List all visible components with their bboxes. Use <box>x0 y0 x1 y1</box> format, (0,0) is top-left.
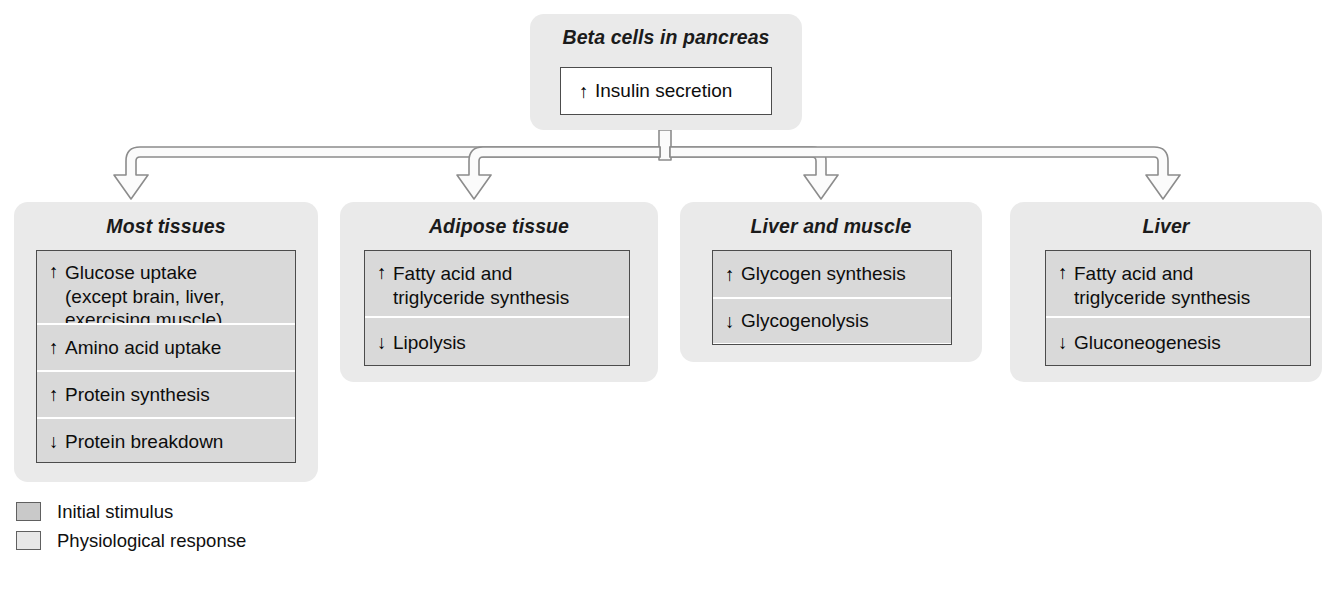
effect-label: Fatty acid and triglyceride synthesis <box>1074 262 1250 309</box>
effect-row: ↓ Lipolysis <box>365 316 629 366</box>
effect-row: ↑ Protein synthesis <box>37 370 295 417</box>
legend-swatch-icon <box>16 502 41 521</box>
up-arrow-icon: ↑ <box>49 338 65 357</box>
connector-stem <box>659 130 671 160</box>
effect-label: Gluconeogenesis <box>1074 331 1221 355</box>
effect-row: ↓ Gluconeogenesis <box>1046 316 1310 366</box>
legend: Initial stimulus Physiological response <box>16 497 246 555</box>
down-arrow-icon: ↓ <box>725 312 741 331</box>
effect-row: ↑ Amino acid uptake <box>37 323 295 370</box>
effect-row: ↑ Glycogen synthesis <box>713 251 951 297</box>
legend-label: Initial stimulus <box>57 501 173 523</box>
effect-box-insulin-secretion: ↑ Insulin secretion <box>560 67 772 115</box>
effect-label: Protein breakdown <box>65 430 223 454</box>
effect-label: Fatty acid and triglyceride synthesis <box>393 262 569 309</box>
up-arrow-icon: ↑ <box>725 265 741 284</box>
down-arrow-icon: ↓ <box>377 333 393 352</box>
effect-label: Lipolysis <box>393 331 466 355</box>
connector-to-liver-and-muscle <box>670 147 838 199</box>
connector-to-most-tissues <box>114 147 660 199</box>
diagram-canvas: Beta cells in pancreas ↑ Insulin secreti… <box>0 0 1331 606</box>
node-header-adipose-tissue: Adipose tissue <box>340 215 658 238</box>
effect-row: ↑ Fatty acid and triglyceride synthesis <box>1046 251 1310 316</box>
node-liver: Liver ↑ Fatty acid and triglyceride synt… <box>1010 202 1322 382</box>
effect-label: Glycogen synthesis <box>741 262 906 286</box>
legend-swatch-icon <box>16 531 41 550</box>
node-most-tissues: Most tissues ↑ Glucose uptake (except br… <box>14 202 318 482</box>
effect-row: ↑ Fatty acid and triglyceride synthesis <box>365 251 629 316</box>
up-arrow-icon: ↑ <box>377 263 393 282</box>
down-arrow-icon: ↓ <box>1058 333 1074 352</box>
effect-label: Glucose uptake (except brain, liver, exe… <box>65 261 224 332</box>
legend-item-physiological-response: Physiological response <box>16 526 246 555</box>
effect-row: ↑ Insulin secretion <box>561 68 771 114</box>
effect-label: Insulin secretion <box>595 79 732 103</box>
node-liver-and-muscle: Liver and muscle ↑ Glycogen synthesis ↓ … <box>680 202 982 362</box>
effect-row: ↓ Glycogenolysis <box>713 297 951 343</box>
node-header-beta-cells: Beta cells in pancreas <box>530 26 802 49</box>
node-header-liver: Liver <box>1010 215 1322 238</box>
effect-box-most-tissues: ↑ Glucose uptake (except brain, liver, e… <box>36 250 296 463</box>
node-adipose-tissue: Adipose tissue ↑ Fatty acid and triglyce… <box>340 202 658 382</box>
up-arrow-icon: ↑ <box>1058 263 1074 282</box>
effect-label: Amino acid uptake <box>65 336 221 360</box>
effect-box-liver: ↑ Fatty acid and triglyceride synthesis … <box>1045 250 1311 366</box>
effect-label: Glycogenolysis <box>741 309 869 333</box>
connector-to-adipose-tissue <box>457 147 660 199</box>
node-header-most-tissues: Most tissues <box>14 215 318 238</box>
effect-label: Protein synthesis <box>65 383 210 407</box>
up-arrow-icon: ↑ <box>579 82 595 101</box>
connector-to-liver <box>670 147 1180 199</box>
down-arrow-icon: ↓ <box>49 432 65 451</box>
legend-label: Physiological response <box>57 530 246 552</box>
up-arrow-icon: ↑ <box>49 385 65 404</box>
effect-box-adipose-tissue: ↑ Fatty acid and triglyceride synthesis … <box>364 250 630 366</box>
up-arrow-icon: ↑ <box>49 262 65 281</box>
effect-row: ↓ Protein breakdown <box>37 417 295 463</box>
effect-box-liver-and-muscle: ↑ Glycogen synthesis ↓ Glycogenolysis <box>712 250 952 345</box>
effect-row: ↑ Glucose uptake (except brain, liver, e… <box>37 251 295 323</box>
node-beta-cells-in-pancreas: Beta cells in pancreas ↑ Insulin secreti… <box>530 14 802 130</box>
legend-item-initial-stimulus: Initial stimulus <box>16 497 246 526</box>
node-header-liver-and-muscle: Liver and muscle <box>680 215 982 238</box>
